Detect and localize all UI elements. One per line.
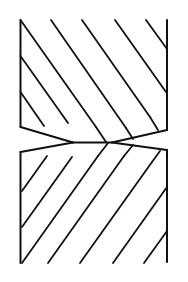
hatched-specimen-diagram — [0, 0, 188, 282]
figure-root — [0, 0, 188, 282]
